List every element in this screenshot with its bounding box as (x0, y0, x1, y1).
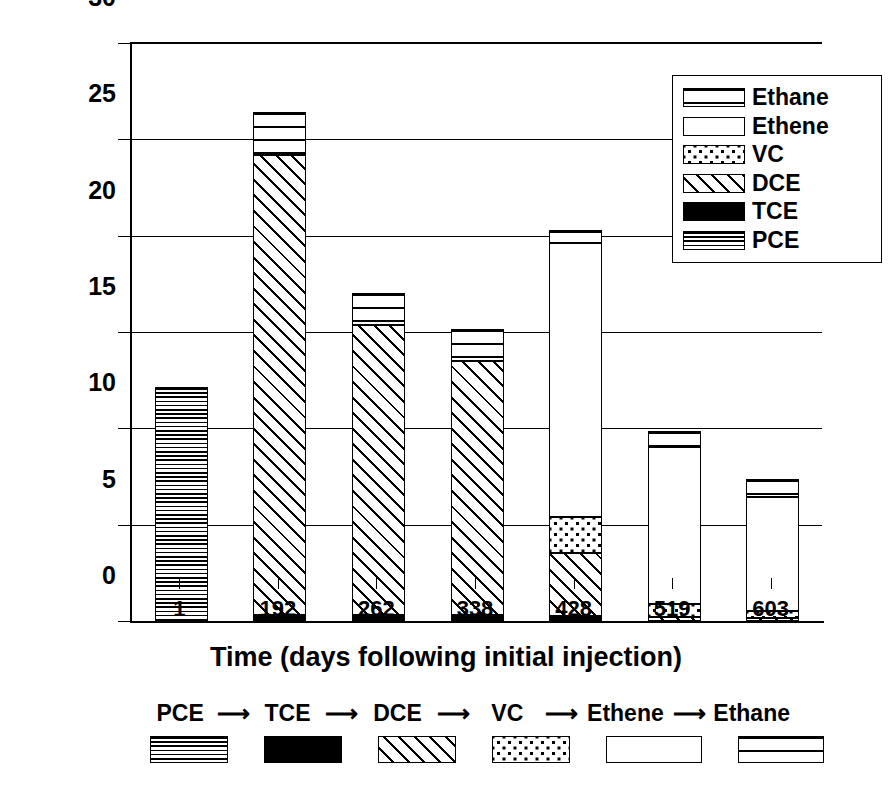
pathway-label-pce: PCE (150, 700, 210, 727)
pathway-label-tce: TCE (257, 700, 317, 727)
legend-item-dce[interactable]: DCE (683, 171, 873, 196)
pathway-swatch-cell (738, 736, 824, 763)
legend-item-ethane[interactable]: Ethane (683, 85, 873, 110)
bar-segment-ethene (746, 497, 799, 612)
y-axis-tick-labels: 051015202530 (0, 0, 116, 578)
bar-segment-ethene (549, 243, 602, 517)
x-axis-tick (672, 578, 673, 589)
pathway-swatch-cell (264, 736, 342, 763)
pathway-arrow-icon: ⟶ (437, 702, 470, 725)
pathway-swatches-row (150, 736, 790, 763)
bar-segment-dce (253, 155, 306, 615)
pathway-swatch-ethane-icon (738, 736, 824, 763)
bar-segment-vc (549, 517, 602, 553)
y-axis-tick-label: 20 (88, 176, 116, 205)
legend-item-ethene[interactable]: Ethene (683, 114, 873, 139)
pathway-swatch-pce-icon (150, 736, 228, 763)
bar-stack (352, 43, 405, 621)
pathway-swatch-cell (492, 736, 570, 763)
pathway-label-ethane: Ethane (713, 700, 790, 727)
legend-label: VC (752, 143, 784, 166)
legend-label: TCE (752, 200, 798, 223)
legend-item-pce[interactable]: PCE (683, 228, 873, 253)
legend-label: Ethane (752, 86, 829, 109)
pathway-swatch-vc-icon (492, 736, 570, 763)
pathway-label-ethene: Ethene (585, 700, 667, 727)
x-axis-tick-label: 338 (425, 596, 525, 622)
bar-segment-ethane (451, 329, 504, 361)
legend-label: Ethene (752, 115, 829, 138)
legend-swatch-ethane-icon (683, 88, 745, 107)
pathway-arrow-icon: ⟶ (545, 702, 578, 725)
x-axis-tick-label: 428 (524, 596, 624, 622)
x-axis-tick (771, 578, 772, 589)
legend-item-vc[interactable]: VC (683, 142, 873, 167)
y-axis-tick (118, 428, 132, 429)
y-axis-tick-label: 30 (88, 0, 116, 12)
bar-segment-ethene (648, 447, 701, 604)
pathway-label-vc: VC (477, 700, 537, 727)
legend-swatch-tce-icon (683, 202, 745, 221)
pathway-names-row: PCE⟶TCE⟶DCE⟶VC⟶Ethene⟶Ethane (150, 700, 790, 727)
y-axis-tick-label: 5 (102, 465, 116, 494)
x-axis-title: Time (days following initial injection) (0, 642, 892, 673)
y-axis-tick (118, 236, 132, 237)
bar-stack (155, 43, 208, 621)
pathway-legend: PCE⟶TCE⟶DCE⟶VC⟶Ethene⟶Ethane (150, 700, 790, 763)
y-axis-tick-label: 25 (88, 79, 116, 108)
legend: EthaneEtheneVCDCETCEPCE (672, 75, 882, 263)
x-axis-tick (179, 578, 180, 589)
y-axis-tick-label: 0 (102, 561, 116, 590)
x-axis-tick (278, 578, 279, 589)
legend-swatch-pce-icon (683, 231, 745, 250)
bar-segment-ethane (648, 431, 701, 446)
bar-segment-pce (155, 387, 208, 621)
bar-segment-ethane (549, 230, 602, 243)
legend-label: DCE (752, 172, 801, 195)
x-axis-tick-label: 519 (622, 596, 722, 622)
pathway-label-dce: DCE (365, 700, 430, 727)
pathway-arrow-icon: ⟶ (217, 702, 250, 725)
pathway-swatch-tce-icon (264, 736, 342, 763)
legend-swatch-ethene-icon (683, 117, 745, 136)
x-axis-tick (574, 578, 575, 589)
x-axis-tick-label: 262 (326, 596, 426, 622)
legend-item-tce[interactable]: TCE (683, 199, 873, 224)
x-axis-tick-label: 603 (721, 596, 821, 622)
pathway-swatch-cell (378, 736, 456, 763)
y-axis-tick (118, 139, 132, 140)
y-axis-tick-label: 10 (88, 368, 116, 397)
x-axis-tick-label: 192 (228, 596, 328, 622)
bar-segment-ethane (253, 112, 306, 154)
bar-segment-ethane (352, 293, 405, 326)
bar-stack (549, 43, 602, 621)
y-axis-tick-label: 15 (88, 272, 116, 301)
bar-segment-dce (451, 361, 504, 615)
x-axis-tick (376, 578, 377, 589)
pathway-swatch-ethene-icon (606, 736, 702, 763)
pathway-swatch-cell (606, 736, 702, 763)
legend-label: PCE (752, 229, 799, 252)
pathway-swatch-cell (150, 736, 228, 763)
chart-figure: Molar Concentration µmole/L 051015202530… (0, 0, 892, 796)
bar-stack (253, 43, 306, 621)
y-axis-tick (118, 43, 132, 44)
x-axis-tick (475, 578, 476, 589)
y-axis-tick (118, 332, 132, 333)
pathway-arrow-icon: ⟶ (325, 702, 358, 725)
y-axis-tick (118, 525, 132, 526)
x-axis-tick-label: 1 (129, 596, 229, 622)
bar-stack (451, 43, 504, 621)
pathway-arrow-icon: ⟶ (673, 702, 706, 725)
pathway-swatch-dce-icon (378, 736, 456, 763)
legend-swatch-dce-icon (683, 174, 745, 193)
bar-segment-ethane (746, 479, 799, 496)
legend-swatch-vc-icon (683, 145, 745, 164)
bar-segment-dce (352, 325, 405, 615)
